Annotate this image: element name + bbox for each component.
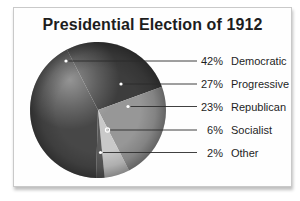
marker-dot-democratic [64,59,67,62]
pie-chart [0,0,300,201]
pie-rim-shadow [30,42,166,178]
marker-dot-progressive [119,82,122,85]
marker-dot-republican [126,105,129,108]
marker-dot-other [99,151,102,154]
